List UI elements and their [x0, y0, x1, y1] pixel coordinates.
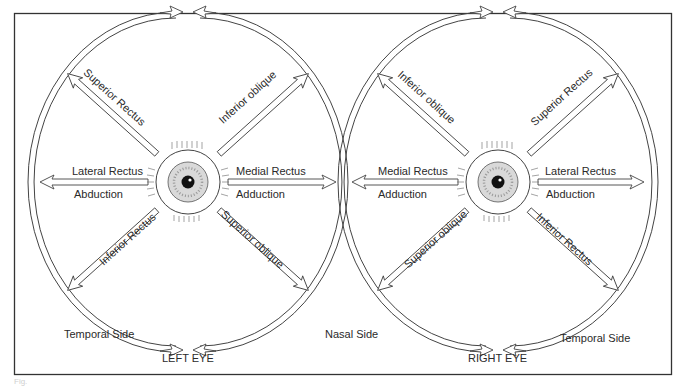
right-top-arrow-icon	[470, 6, 493, 18]
right-eye-panel: Inferior oblique Superior Rectus Medial …	[338, 6, 658, 364]
right-label-abduction: Abduction	[546, 188, 595, 200]
right-label-inferior-rectus: Inferior Rectus	[534, 211, 596, 268]
right-inferior-oblique-arrow-icon	[373, 68, 472, 159]
left-label-inferior-rectus: Inferior Rectus	[97, 210, 159, 267]
right-label-adduction: Adduction	[378, 188, 427, 200]
right-medial-arrow-icon	[352, 175, 458, 189]
left-top-arrow-icon	[160, 6, 183, 18]
left-medial-arrow-icon	[228, 175, 336, 189]
left-temporal-side-label: Temporal Side	[64, 328, 134, 340]
left-eye-title: LEFT EYE	[162, 352, 214, 364]
left-label-lateral-rectus: Lateral Rectus	[72, 165, 143, 177]
right-eyeball-icon	[457, 141, 539, 222]
left-label-superior-oblique: Superior oblique	[219, 208, 287, 271]
left-top-arrow-icon-2	[193, 6, 216, 18]
left-eye-panel: Superior Rectus Inferior oblique Lateral…	[28, 6, 378, 364]
right-label-superior-oblique: Superior oblique	[402, 208, 470, 271]
left-superior-rectus-arrow-icon	[63, 68, 162, 159]
left-label-adduction: Adduction	[236, 188, 285, 200]
right-top-arrow-icon-2	[503, 6, 526, 18]
right-label-lateral-rectus: Lateral Rectus	[545, 165, 616, 177]
extraocular-muscles-diagram: Superior Rectus Inferior oblique Lateral…	[0, 0, 685, 386]
left-label-abduction: Abduction	[74, 188, 123, 200]
left-label-medial-rectus: Medial Rectus	[236, 165, 306, 177]
left-lateral-arrow-icon	[40, 175, 148, 189]
nasal-side-label: Nasal Side	[325, 328, 378, 340]
right-lateral-arrow-icon	[538, 175, 644, 189]
right-label-medial-rectus: Medial Rectus	[378, 165, 448, 177]
figure-caption: Fig.	[14, 377, 27, 386]
right-eye-title: RIGHT EYE	[468, 352, 527, 364]
left-label-inferior-oblique: Inferior oblique	[216, 68, 278, 126]
left-eyeball-icon	[147, 141, 229, 222]
right-label-superior-rectus: Superior Rectus	[528, 66, 595, 128]
right-temporal-side-label: Temporal Side	[560, 332, 630, 344]
